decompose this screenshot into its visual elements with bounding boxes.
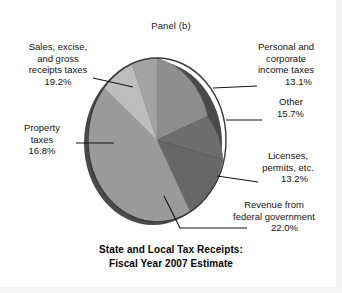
slice-label-sales-excise-and-gross-receipts-taxes: Sales, excise, and gross receipts taxes … (6, 41, 110, 87)
slice-value-sales: 19.2% (6, 76, 110, 88)
slice-label-licenses-permits-etc: Licenses, permits, etc. 13.2% (238, 150, 338, 185)
slice-label-line1: Revenue from (244, 199, 304, 210)
slice-label-line1: Property (24, 122, 60, 133)
slice-label-line2: corporate (266, 53, 306, 64)
slice-value-licenses: 13.2% (238, 173, 338, 185)
slice-label-line2: and gross (37, 53, 79, 64)
slice-label-line2: permits, etc. (262, 162, 314, 173)
slice-label-line3: receipts taxes (29, 64, 88, 75)
slice-label-personal-and-corporate-income-taxes: Personal and corporate income taxes 13.1… (234, 41, 338, 87)
slice-value-property: 16.8% (4, 145, 80, 157)
slice-label-property-taxes: Property taxes 16.8% (4, 122, 80, 157)
chart-title-line1: State and Local Tax Receipts: (99, 244, 243, 255)
figure-panel-b: Panel (b) (0, 0, 342, 293)
slice-value-federal: 22.0% (210, 222, 338, 234)
slice-label-line2: taxes (31, 134, 54, 145)
chart-title: State and Local Tax Receipts: Fiscal Yea… (0, 243, 342, 270)
slice-value-other: 15.7% (246, 108, 336, 120)
chart-title-line2: Fiscal Year 2007 Estimate (109, 258, 233, 269)
slice-label-line1: Other (279, 96, 303, 107)
slice-label-revenue-from-federal-government: Revenue from federal government 22.0% (210, 199, 338, 234)
slice-label-line2: federal government (233, 211, 315, 222)
slice-label-line3: income taxes (258, 64, 314, 75)
slice-value-personal: 13.1% (234, 76, 338, 88)
slice-label-other: Other 15.7% (246, 96, 336, 119)
slice-label-line1: Personal and (258, 41, 314, 52)
slice-label-line1: Sales, excise, (29, 41, 88, 52)
slice-label-line1: Licenses, (268, 150, 308, 161)
